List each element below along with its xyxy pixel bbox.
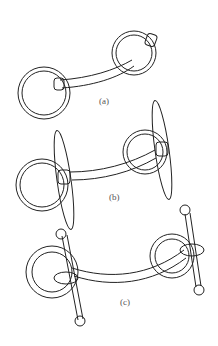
label-a: (a) xyxy=(99,96,109,106)
bit-a xyxy=(18,31,158,119)
label-b: (b) xyxy=(109,192,120,202)
bit-c xyxy=(26,205,204,326)
figure-canvas xyxy=(0,0,218,346)
label-c: (c) xyxy=(120,297,130,307)
